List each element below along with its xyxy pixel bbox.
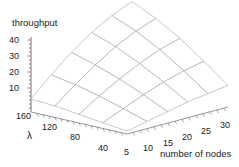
nodes-tick-label-10: 10 <box>143 143 153 153</box>
nodes-tick-label-25: 25 <box>201 126 211 136</box>
z-axis-ticks <box>28 40 32 108</box>
lambda-tick-label-40: 40 <box>98 143 108 153</box>
plot-title: throughput <box>12 17 58 28</box>
z-tick-label-40: 40 <box>9 35 19 45</box>
lambda-axis-label: λ <box>27 130 32 141</box>
nodes-tick-label-30: 30 <box>220 120 230 130</box>
nodes-tick-label-15: 15 <box>163 138 173 148</box>
surface-mesh <box>31 1 228 131</box>
plot-canvas: throughput 40 30 20 10 160 120 80 40 λ 5… <box>0 0 239 167</box>
nodes-tick-label-20: 20 <box>182 132 192 142</box>
z-tick-labels: 40 30 20 10 <box>9 35 19 93</box>
z-tick-label-10: 10 <box>9 83 19 93</box>
nodes-tick-label-5: 5 <box>124 147 129 157</box>
nodes-axis-label: number of nodes <box>160 148 232 159</box>
z-tick-label-30: 30 <box>9 51 19 61</box>
lambda-tick-label-160: 160 <box>16 111 31 121</box>
lambda-tick-label-80: 80 <box>70 132 80 142</box>
surface-plot-figure: throughput 40 30 20 10 160 120 80 40 λ 5… <box>0 0 239 167</box>
z-tick-label-20: 20 <box>9 67 19 77</box>
z-axis <box>28 37 32 112</box>
lambda-tick-label-120: 120 <box>42 122 57 132</box>
